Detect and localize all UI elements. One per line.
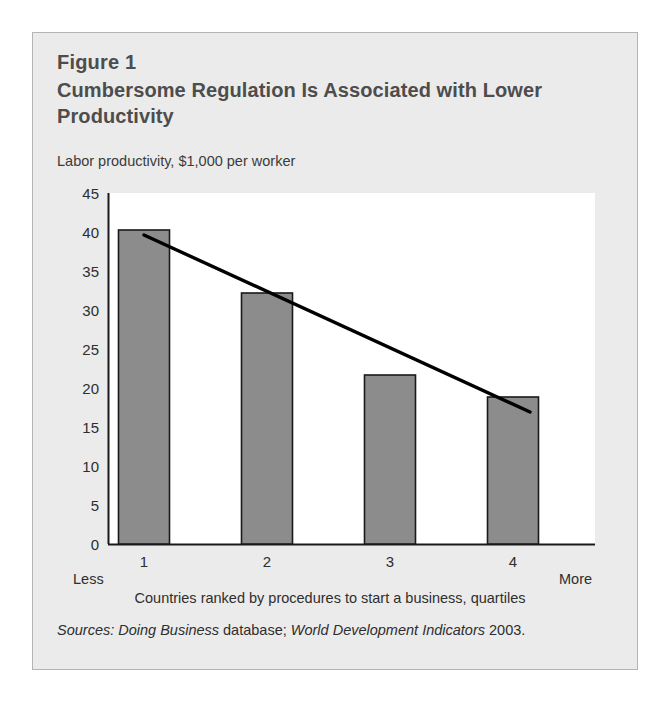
source-mid-text: database; xyxy=(223,622,287,638)
x-tick-1: 1 xyxy=(140,553,148,570)
bar-quartile-2 xyxy=(242,293,293,544)
figure-panel: Figure 1 Cumbersome Regulation Is Associ… xyxy=(32,32,638,670)
source-italic-wdi: World Development Indicators xyxy=(291,622,485,638)
y-tick-45: 45 xyxy=(82,185,99,202)
source-year: 2003. xyxy=(489,622,525,638)
y-tick-0: 0 xyxy=(91,536,99,553)
y-axis-tick-labels: 45 40 35 30 25 20 15 10 5 0 xyxy=(82,185,99,553)
y-tick-15: 15 xyxy=(82,419,99,436)
y-tick-25: 25 xyxy=(82,341,99,358)
y-tick-10: 10 xyxy=(82,458,99,475)
bar-quartile-1 xyxy=(119,230,170,544)
x-axis-tick-labels: 1 2 3 4 xyxy=(140,553,517,570)
chart-plot-area: 45 40 35 30 25 20 15 10 5 0 xyxy=(33,33,639,671)
bar-chart-svg: 45 40 35 30 25 20 15 10 5 0 xyxy=(33,33,639,671)
x-axis-title: Countries ranked by procedures to start … xyxy=(135,590,526,606)
y-tick-20: 20 xyxy=(82,380,99,397)
y-tick-30: 30 xyxy=(82,302,99,319)
source-italic-doing-business: Doing Business xyxy=(118,622,219,638)
bar-quartile-3 xyxy=(365,375,416,544)
x-tick-3: 3 xyxy=(386,553,394,570)
x-axis-more-label: More xyxy=(559,571,592,587)
bar-quartile-4 xyxy=(488,397,539,544)
x-tick-4: 4 xyxy=(509,553,517,570)
y-tick-5: 5 xyxy=(91,497,99,514)
x-axis-less-label: Less xyxy=(73,571,104,587)
source-note: Sources: Doing Business database; World … xyxy=(57,622,627,638)
source-prefix: Sources: xyxy=(57,622,114,638)
y-tick-40: 40 xyxy=(82,224,99,241)
x-tick-2: 2 xyxy=(263,553,271,570)
y-tick-35: 35 xyxy=(82,263,99,280)
